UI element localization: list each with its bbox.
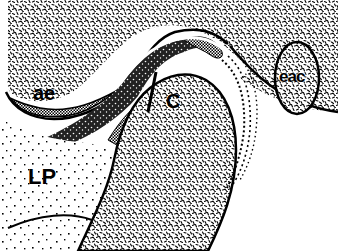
label-lateral-pterygoid: LP	[28, 166, 56, 188]
label-articular-eminence: ae	[33, 83, 55, 103]
diagram-artwork	[0, 0, 338, 251]
label-external-auditory-canal: eac	[279, 68, 304, 85]
label-condyle: C	[166, 91, 180, 111]
tmj-diagram: ae C eac LP	[0, 0, 338, 251]
